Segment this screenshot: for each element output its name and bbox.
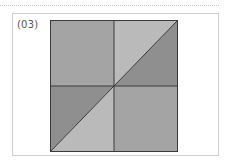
figure-label: (03)	[17, 19, 38, 31]
diagram-svg	[50, 20, 178, 152]
dotted-separator	[0, 5, 219, 6]
top-left-quadrant	[50, 20, 114, 86]
bottom-right-quadrant	[114, 86, 178, 152]
quadrant-diagram	[50, 20, 178, 152]
